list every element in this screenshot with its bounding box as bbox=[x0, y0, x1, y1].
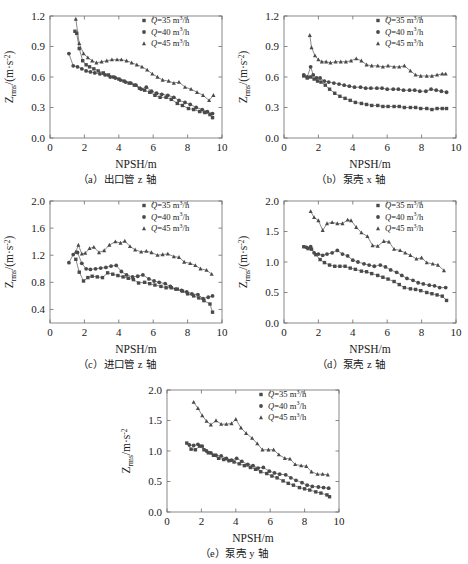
svg-text:10: 10 bbox=[217, 326, 229, 338]
caption-a: （a）出口管 z 轴 bbox=[0, 171, 234, 186]
svg-text:0: 0 bbox=[164, 515, 170, 527]
svg-text:0.3: 0.3 bbox=[265, 101, 279, 113]
svg-text:0: 0 bbox=[281, 326, 287, 338]
subplot-b: 02468100.00.30.60.91.2NPSH/mZrms/(m·s-2)… bbox=[234, 0, 468, 190]
svg-text:1.0: 1.0 bbox=[265, 256, 279, 268]
svg-text:Zrms/(m·s-2): Zrms/(m·s-2) bbox=[237, 236, 252, 289]
chart-svg-b: 02468100.00.30.60.91.2NPSH/mZrms/(m·s-2)… bbox=[234, 0, 468, 190]
svg-text:10: 10 bbox=[451, 326, 463, 338]
svg-text:Zrms/(m·s-2): Zrms/(m·s-2) bbox=[237, 51, 252, 104]
svg-text:0.5: 0.5 bbox=[148, 475, 162, 487]
svg-text:6: 6 bbox=[150, 141, 156, 153]
svg-text:Zrms/(m·s-2): Zrms/(m·s-2) bbox=[3, 51, 18, 104]
subplot-d: 02468100.00.51.01.52.0NPSH/mZrms/(m·s-2)… bbox=[234, 185, 468, 375]
chart-svg-d: 02468100.00.51.01.52.0NPSH/mZrms/(m·s-2)… bbox=[234, 185, 468, 375]
svg-text:6: 6 bbox=[384, 141, 390, 153]
svg-text:2: 2 bbox=[82, 326, 88, 338]
svg-text:Zrms/(m·s-2): Zrms/(m·s-2) bbox=[3, 236, 18, 289]
svg-text:8: 8 bbox=[185, 326, 191, 338]
svg-text:4: 4 bbox=[116, 141, 122, 153]
svg-text:Q=45 m3/h: Q=45 m3/h bbox=[151, 223, 190, 233]
svg-text:8: 8 bbox=[419, 141, 425, 153]
svg-text:Q=40 m3/h: Q=40 m3/h bbox=[385, 211, 424, 221]
svg-text:Q=35 m3/h: Q=35 m3/h bbox=[385, 200, 424, 210]
svg-text:1.2: 1.2 bbox=[265, 10, 279, 22]
svg-text:NPSH/m: NPSH/m bbox=[349, 158, 391, 170]
svg-text:1.2: 1.2 bbox=[31, 10, 45, 22]
svg-text:0.0: 0.0 bbox=[265, 317, 279, 329]
svg-text:10: 10 bbox=[451, 141, 463, 153]
svg-text:6: 6 bbox=[150, 326, 156, 338]
svg-text:2: 2 bbox=[316, 326, 322, 338]
svg-text:2.0: 2.0 bbox=[265, 195, 279, 207]
caption-c: （c）进口管 z 轴 bbox=[0, 356, 234, 371]
caption-e: （e）泵壳 y 轴 bbox=[117, 545, 351, 560]
svg-text:0.5: 0.5 bbox=[265, 286, 279, 298]
svg-text:Q=40 m3/h: Q=40 m3/h bbox=[385, 26, 424, 36]
caption-d: （d）泵壳 z 轴 bbox=[234, 356, 468, 371]
svg-text:Q=35 m3/h: Q=35 m3/h bbox=[151, 15, 190, 25]
chart-svg-e: 02468100.00.51.01.52.0NPSH/mZrms/m·s-2Q=… bbox=[117, 374, 351, 564]
svg-text:Q=40 m3/h: Q=40 m3/h bbox=[268, 400, 307, 410]
chart-svg-c: 02468100.40.81.21.62.0NPSH/mZrms/(m·s-2)… bbox=[0, 185, 234, 375]
chart-svg-a: 02468100.00.30.60.91.2NPSH/mZrms/(m·s-2)… bbox=[0, 0, 234, 190]
svg-text:0.4: 0.4 bbox=[31, 303, 45, 315]
svg-text:Q=40 m3/h: Q=40 m3/h bbox=[151, 26, 190, 36]
svg-text:1.2: 1.2 bbox=[31, 249, 45, 261]
subplot-c: 02468100.40.81.21.62.0NPSH/mZrms/(m·s-2)… bbox=[0, 185, 234, 375]
svg-text:4: 4 bbox=[116, 326, 122, 338]
plot-d: 02468100.00.51.01.52.0NPSH/mZrms/(m·s-2)… bbox=[234, 185, 468, 375]
svg-text:Q=35 m3/h: Q=35 m3/h bbox=[268, 389, 307, 399]
svg-text:Zrms/m·s-2: Zrms/m·s-2 bbox=[120, 428, 135, 473]
svg-text:0: 0 bbox=[47, 326, 53, 338]
svg-text:0.0: 0.0 bbox=[265, 132, 279, 144]
svg-text:4: 4 bbox=[350, 326, 356, 338]
svg-text:Q=45 m3/h: Q=45 m3/h bbox=[385, 223, 424, 233]
svg-text:2.0: 2.0 bbox=[31, 195, 45, 207]
svg-text:NPSH/m: NPSH/m bbox=[349, 343, 391, 355]
svg-text:6: 6 bbox=[267, 515, 273, 527]
svg-text:Q=35 m3/h: Q=35 m3/h bbox=[151, 200, 190, 210]
svg-text:0.6: 0.6 bbox=[265, 71, 279, 83]
svg-text:2: 2 bbox=[316, 141, 322, 153]
subplot-e: 02468100.00.51.01.52.0NPSH/mZrms/m·s-2Q=… bbox=[117, 374, 351, 564]
svg-text:0.0: 0.0 bbox=[148, 506, 162, 518]
svg-text:NPSH/m: NPSH/m bbox=[115, 343, 157, 355]
svg-text:0.9: 0.9 bbox=[31, 40, 45, 52]
svg-text:6: 6 bbox=[384, 326, 390, 338]
svg-text:0.6: 0.6 bbox=[31, 71, 45, 83]
svg-text:Q=45 m3/h: Q=45 m3/h bbox=[385, 38, 424, 48]
svg-text:0.0: 0.0 bbox=[31, 132, 45, 144]
caption-b: （b）泵壳 x 轴 bbox=[234, 171, 468, 186]
svg-text:0.3: 0.3 bbox=[31, 101, 45, 113]
svg-text:2: 2 bbox=[199, 515, 205, 527]
svg-text:2: 2 bbox=[82, 141, 88, 153]
figure-vibration-vs-npsh: 02468100.00.30.60.91.2NPSH/mZrms/(m·s-2)… bbox=[0, 0, 468, 564]
svg-text:8: 8 bbox=[185, 141, 191, 153]
svg-text:0: 0 bbox=[47, 141, 53, 153]
plot-a: 02468100.00.30.60.91.2NPSH/mZrms/(m·s-2)… bbox=[0, 0, 234, 190]
svg-text:1.6: 1.6 bbox=[31, 222, 45, 234]
subplot-a: 02468100.00.30.60.91.2NPSH/mZrms/(m·s-2)… bbox=[0, 0, 234, 190]
svg-text:NPSH/m: NPSH/m bbox=[232, 532, 274, 544]
svg-text:1.0: 1.0 bbox=[148, 445, 162, 457]
svg-text:2.0: 2.0 bbox=[148, 384, 162, 396]
svg-text:0.9: 0.9 bbox=[265, 40, 279, 52]
svg-text:1.5: 1.5 bbox=[265, 225, 279, 237]
svg-text:Q=45 m3/h: Q=45 m3/h bbox=[151, 38, 190, 48]
svg-text:4: 4 bbox=[350, 141, 356, 153]
plot-c: 02468100.40.81.21.62.0NPSH/mZrms/(m·s-2)… bbox=[0, 185, 234, 375]
svg-text:Q=40 m3/h: Q=40 m3/h bbox=[151, 211, 190, 221]
svg-text:4: 4 bbox=[233, 515, 239, 527]
svg-text:8: 8 bbox=[302, 515, 308, 527]
svg-text:8: 8 bbox=[419, 326, 425, 338]
svg-text:Q=35 m3/h: Q=35 m3/h bbox=[385, 15, 424, 25]
plot-b: 02468100.00.30.60.91.2NPSH/mZrms/(m·s-2)… bbox=[234, 0, 468, 190]
svg-text:NPSH/m: NPSH/m bbox=[115, 158, 157, 170]
svg-text:Q=45 m3/h: Q=45 m3/h bbox=[268, 412, 307, 422]
svg-text:10: 10 bbox=[334, 515, 346, 527]
svg-text:0: 0 bbox=[281, 141, 287, 153]
svg-text:0.8: 0.8 bbox=[31, 276, 45, 288]
svg-text:10: 10 bbox=[217, 141, 229, 153]
svg-text:1.5: 1.5 bbox=[148, 414, 162, 426]
